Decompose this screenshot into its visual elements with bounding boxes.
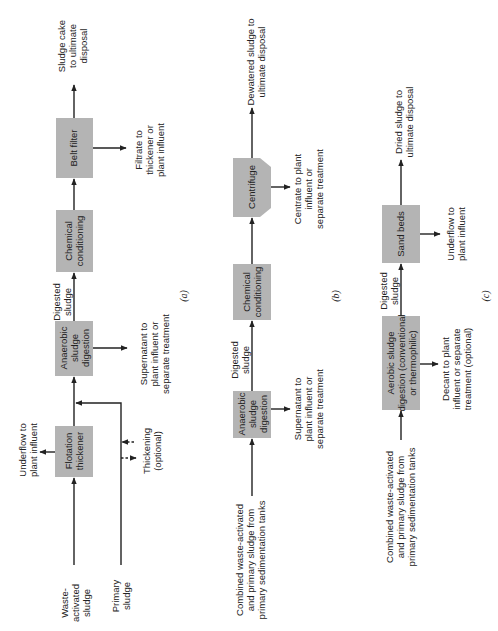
diagram-b: Anaerobic sludge digestion Chemical cond… (229, 18, 342, 619)
svg-text:Belt filter: Belt filter (68, 130, 79, 167)
svg-text:plant influent: plant influent (456, 207, 467, 261)
svg-text:Sand beds: Sand beds (395, 211, 406, 257)
svg-text:separate treatment: separate treatment (314, 149, 325, 229)
filtrate-text: Filtrate to thickener or plant influent (133, 123, 166, 177)
sludge-cake-text: Sludge cake to ultimate disposal (56, 20, 89, 72)
svg-text:plant influent or: plant influent or (303, 377, 314, 442)
svg-text:conditioning: conditioning (74, 216, 85, 267)
svg-text:Anaerobic: Anaerobic (58, 326, 69, 369)
dried-sludge-text: Dried sludge to ultimate disposal (393, 87, 415, 158)
diagram-a-label: (a) (178, 290, 190, 302)
svg-text:influent or separate: influent or separate (451, 328, 462, 409)
svg-text:separate treatment: separate treatment (314, 369, 325, 449)
svg-text:thickener or: thickener or (144, 125, 155, 175)
svg-text:Filtrate to: Filtrate to (133, 130, 144, 170)
belt-filter-label: Belt filter (68, 130, 79, 167)
svg-text:thickener: thickener (74, 432, 85, 471)
svg-text:sludge: sludge (81, 589, 92, 617)
svg-text:(optional): (optional) (152, 431, 163, 471)
svg-text:Aerobic sludge: Aerobic sludge (385, 332, 396, 395)
underflow-text-a: Underflow to plant influent (17, 423, 39, 477)
combined-sludge-text-b: Combined waste-activated and primary slu… (234, 500, 267, 619)
svg-text:sludge: sludge (62, 288, 73, 316)
combined-sludge-text-c: Combined waste-activated and primary slu… (384, 447, 417, 566)
digested-sludge-text-a: Digested sludge (51, 283, 73, 321)
svg-text:Underflow to: Underflow to (17, 423, 28, 476)
svg-text:ultimate disposal: ultimate disposal (256, 27, 267, 98)
chemical-conditioning-label-b: Chemical conditioning (241, 267, 263, 318)
svg-text:Chemical: Chemical (241, 272, 252, 312)
svg-text:Decant to plant: Decant to plant (440, 337, 451, 401)
svg-text:ultimate disposal: ultimate disposal (404, 87, 415, 158)
svg-text:separate treatment: separate treatment (160, 314, 171, 394)
diagram-a: Flotation thickener Anaerobic sludge dig… (17, 20, 190, 622)
svg-text:digestion: digestion (258, 395, 269, 433)
underflow-text-c: Underflow to plant influent (445, 207, 467, 261)
svg-text:sludge: sludge (69, 334, 80, 362)
svg-text:to ultimate: to ultimate (67, 24, 78, 68)
svg-text:Combined waste-activated: Combined waste-activated (234, 504, 245, 616)
svg-text:and primary sludge from: and primary sludge from (245, 509, 256, 612)
svg-text:Underflow to: Underflow to (445, 207, 456, 260)
chemical-conditioning-label-a: Chemical conditioning (63, 216, 85, 267)
svg-text:Flotation: Flotation (63, 433, 74, 469)
svg-text:and primary sludge from: and primary sludge from (395, 456, 406, 559)
svg-text:disposal: disposal (78, 29, 89, 64)
svg-text:Sludge cake: Sludge cake (56, 20, 67, 72)
digested-sludge-text-b: Digested sludge (229, 341, 251, 379)
flotation-thickener-label: Flotation thickener (63, 432, 85, 471)
svg-text:primary sedimentation tanks: primary sedimentation tanks (256, 500, 267, 619)
decant-text: Decant to plant influent or separate tre… (440, 328, 473, 410)
svg-text:plant influent: plant influent (28, 423, 39, 477)
thickening-optional-text: Thickening (optional) (141, 428, 163, 474)
supernatant-text-b: Supernatant to plant influent or separat… (292, 369, 325, 449)
svg-text:plant influent: plant influent (155, 123, 166, 177)
svg-text:Thickening: Thickening (141, 428, 152, 474)
digested-sludge-text-c: Digested sludge (378, 272, 400, 310)
svg-text:Dewatered sludge to: Dewatered sludge to (245, 18, 256, 105)
svg-text:sludge: sludge (240, 346, 251, 374)
diagram-b-label: (b) (330, 290, 342, 302)
svg-text:Digested: Digested (51, 283, 62, 321)
svg-text:(c): (c) (480, 290, 492, 302)
svg-text:Digested: Digested (229, 341, 240, 379)
svg-text:conditioning: conditioning (252, 267, 263, 318)
svg-text:Centrifuge: Centrifuge (246, 165, 257, 209)
svg-text:Waste-: Waste- (59, 588, 70, 618)
diagram-c-label: (c) (480, 290, 492, 302)
primary-sludge-text: Primary sludge (110, 579, 132, 612)
svg-text:sludge: sludge (247, 400, 258, 428)
svg-text:Primary: Primary (110, 579, 121, 612)
svg-text:influent or: influent or (303, 168, 314, 210)
diagram-c: Aerobic sludge digestion (conventional o… (378, 87, 492, 567)
svg-text:sludge: sludge (389, 277, 400, 305)
sludge-process-diagrams: Flotation thickener Anaerobic sludge dig… (0, 0, 498, 631)
svg-text:primary sedimentation tanks: primary sedimentation tanks (406, 447, 417, 566)
svg-text:Centrate to plant: Centrate to plant (292, 154, 303, 225)
svg-text:Dried sludge to: Dried sludge to (393, 90, 404, 154)
svg-text:Digested: Digested (378, 272, 389, 310)
svg-text:(b): (b) (330, 290, 342, 302)
waste-activated-sludge-text: Waste- activated sludge (59, 584, 92, 622)
svg-text:sludge: sludge (121, 582, 132, 610)
dewatered-text: Dewatered sludge to ultimate disposal (245, 18, 267, 105)
supernatant-text-a: Supernatant to plant influent or separat… (138, 314, 171, 394)
svg-text:Combined waste-activated: Combined waste-activated (384, 451, 395, 563)
centrate-text: Centrate to plant influent or separate t… (292, 149, 325, 229)
svg-text:Supernatant to: Supernatant to (138, 323, 149, 385)
svg-text:activated: activated (70, 584, 81, 622)
svg-text:digestion: digestion (80, 329, 91, 367)
svg-text:Anaerobic: Anaerobic (236, 392, 247, 435)
svg-text:digestion (conventional: digestion (conventional (396, 314, 407, 411)
svg-text:Chemical: Chemical (63, 221, 74, 261)
centrifuge-label: Centrifuge (246, 165, 257, 209)
svg-text:plant influent or: plant influent or (149, 322, 160, 387)
svg-text:(a): (a) (178, 290, 190, 302)
svg-text:Supernatant to: Supernatant to (292, 378, 303, 440)
svg-text:or thermophilic): or thermophilic) (407, 330, 418, 395)
svg-text:treatment (optional): treatment (optional) (462, 328, 473, 410)
sand-beds-label: Sand beds (395, 211, 406, 257)
